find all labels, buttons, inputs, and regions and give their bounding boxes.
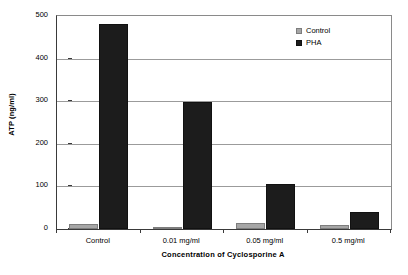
bar-control (69, 224, 98, 229)
x-axis-title: Concentration of Cyclosporine A (56, 250, 390, 259)
y-axis-tick-label: 100 (35, 181, 48, 189)
x-axis-tick-mark (223, 229, 224, 233)
black-square-icon (296, 40, 302, 46)
bar-group (57, 16, 141, 229)
y-axis-tick-label: 500 (35, 11, 48, 19)
chart-legend: ControlPHA (296, 26, 330, 50)
x-axis-tick-label: 0.05 mg/ml (223, 236, 307, 246)
legend-entry: Control (296, 26, 330, 36)
legend-label: PHA (306, 39, 321, 47)
y-axis-title-text: ATP (ng/ml) (7, 93, 16, 136)
bar-group (224, 16, 308, 229)
bar-group (141, 16, 225, 229)
gray-square-icon (296, 28, 302, 34)
bar-control (236, 223, 265, 229)
bar-pha (266, 184, 295, 229)
x-axis-tick-mark (56, 229, 57, 233)
bar-control (320, 225, 349, 229)
y-axis-tick-labels: 0100200300400500 (20, 0, 52, 240)
x-axis-tick-mark (390, 229, 391, 233)
bar-pha (99, 24, 128, 229)
bar-pha (183, 102, 212, 229)
x-axis-tick-mark (307, 229, 308, 233)
y-axis-title: ATP (ng/ml) (2, 0, 20, 228)
bar-control (153, 227, 182, 229)
x-axis-tick-label: 0.01 mg/ml (140, 236, 224, 246)
legend-entry: PHA (296, 38, 330, 48)
legend-label: Control (306, 27, 330, 35)
x-axis-tick-labels: Control0.01 mg/ml0.05 mg/ml0.5 mg/ml (56, 236, 390, 250)
x-axis-tick-mark (140, 229, 141, 233)
bars-layer (57, 16, 391, 229)
plot-area (56, 15, 392, 230)
x-axis-tick-label: Control (56, 236, 140, 246)
y-axis-tick-label: 0 (44, 224, 48, 232)
bar-chart-figure: ATP (ng/ml) 0100200300400500 Control0.01… (0, 0, 408, 275)
y-axis-tick-label: 400 (35, 54, 48, 62)
bar-pha (350, 212, 379, 229)
y-axis-tick-label: 300 (35, 96, 48, 104)
y-axis-tick-label: 200 (35, 139, 48, 147)
x-axis-tick-label: 0.5 mg/ml (307, 236, 391, 246)
